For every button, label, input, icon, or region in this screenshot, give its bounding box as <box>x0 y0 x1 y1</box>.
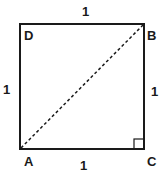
vertex-label-d: D <box>24 28 33 43</box>
side-label-left: 1 <box>3 82 10 97</box>
side-label-bottom: 1 <box>80 158 87 173</box>
vertex-label-a: A <box>24 154 34 169</box>
vertex-label-c: C <box>147 154 157 169</box>
vertex-label-b: B <box>147 28 156 43</box>
side-label-right: 1 <box>151 84 158 99</box>
side-label-top: 1 <box>82 4 89 19</box>
square-diagram: D B C A 1 1 1 1 <box>0 0 165 177</box>
right-angle-marker <box>134 139 144 149</box>
diagonal-ab <box>21 25 143 148</box>
